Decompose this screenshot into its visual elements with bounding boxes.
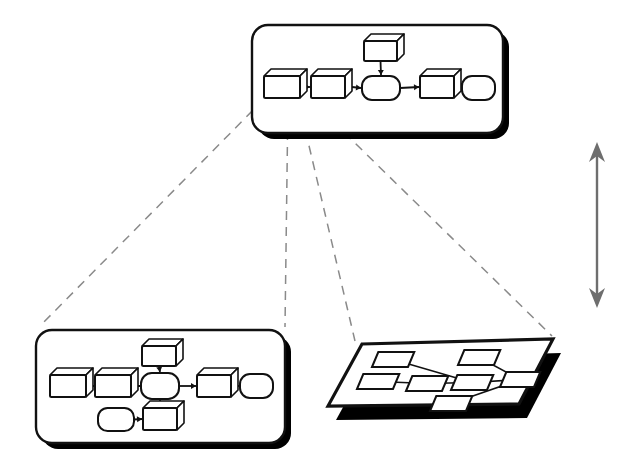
node-rounded[interactable] — [240, 374, 273, 398]
diagram-svg — [0, 0, 630, 474]
plane-node[interactable] — [430, 396, 472, 411]
node-rounded[interactable] — [462, 76, 495, 100]
node-3d-front-face[interactable] — [197, 375, 231, 397]
node-3d-front-face[interactable] — [311, 76, 345, 98]
node-rounded[interactable] — [98, 408, 134, 431]
abstract-workflow-panel[interactable] — [252, 25, 509, 139]
plane-node[interactable] — [458, 350, 500, 365]
diagram-canvas — [0, 0, 630, 474]
node-3d-front-face[interactable] — [264, 76, 300, 98]
plane-node[interactable] — [500, 372, 540, 387]
node-3d-front-face[interactable] — [50, 375, 86, 397]
node-3d-front-face[interactable] — [142, 346, 176, 366]
node-rounded[interactable] — [362, 76, 400, 100]
plane-node[interactable] — [357, 374, 399, 389]
node-3d-front-face[interactable] — [143, 408, 177, 430]
node-rounded[interactable] — [141, 373, 179, 399]
node-3d-front-face[interactable] — [95, 375, 131, 397]
abstraction-level-arrow-group — [589, 142, 605, 308]
node-3d-front-face[interactable] — [364, 41, 397, 61]
projection-line-1 — [40, 99, 264, 326]
plane-node[interactable] — [372, 352, 414, 367]
plane-node[interactable] — [451, 375, 493, 390]
plane-node[interactable] — [406, 376, 448, 391]
projected-plane-group[interactable] — [328, 339, 561, 420]
node-3d-front-face[interactable] — [420, 76, 454, 98]
expanded-workflow-panel[interactable] — [36, 330, 291, 449]
